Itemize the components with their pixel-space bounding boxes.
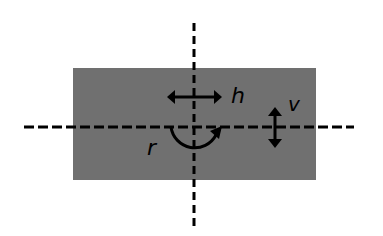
motion-diagram: h v r (0, 0, 383, 236)
label-v: v (288, 92, 301, 116)
gray-rectangle (73, 68, 316, 180)
label-h: h (231, 83, 245, 108)
